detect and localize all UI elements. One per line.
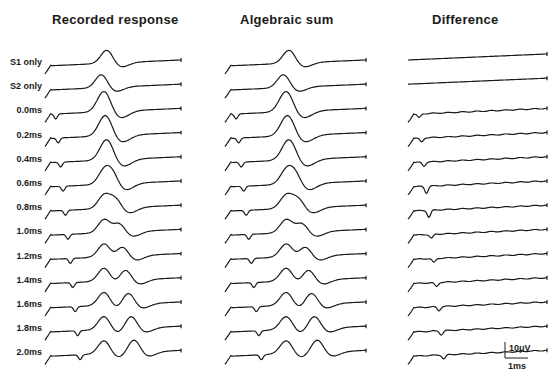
waveform-trace	[225, 244, 366, 268]
waveform-trace	[225, 92, 366, 123]
waveform-trace	[45, 244, 181, 268]
waveform-trace	[225, 219, 366, 243]
waveform-trace	[45, 193, 181, 219]
waveform-trace	[225, 340, 366, 364]
waveform-trace	[408, 180, 547, 195]
waveform-trace	[408, 325, 547, 340]
waveform-trace	[225, 50, 366, 74]
waveform-trace	[45, 50, 181, 74]
waveform-trace	[225, 165, 366, 195]
waveform-trace	[45, 140, 181, 171]
waveform-trace	[45, 219, 181, 243]
waveform-trace	[408, 228, 547, 243]
waveform-trace	[45, 75, 181, 98]
waveform-trace	[408, 156, 547, 171]
waveform-trace	[408, 107, 547, 122]
waveform-trace	[45, 317, 181, 341]
waveform-trace	[45, 92, 181, 123]
waveform-trace	[45, 116, 181, 147]
waveform-trace	[225, 317, 366, 341]
trace-plot	[0, 0, 560, 381]
waveform-trace	[408, 77, 547, 84]
waveform-trace	[408, 277, 547, 292]
waveform-trace	[45, 268, 181, 292]
waveform-trace	[225, 140, 366, 171]
waveform-trace	[225, 193, 366, 219]
waveform-trace	[225, 116, 366, 147]
waveform-trace	[225, 268, 366, 292]
waveform-trace	[408, 301, 547, 316]
waveform-trace	[45, 165, 181, 195]
waveform-trace	[408, 53, 547, 60]
waveform-trace	[225, 75, 366, 98]
waveform-trace	[408, 132, 547, 147]
waveform-trace	[45, 293, 181, 317]
waveform-trace	[225, 293, 366, 317]
waveform-trace	[45, 340, 181, 364]
waveform-trace	[408, 204, 547, 219]
scale-bar-time-label: 1ms	[508, 361, 526, 371]
scale-bar-voltage-label: 10μV	[509, 343, 531, 353]
waveform-trace	[408, 253, 547, 268]
